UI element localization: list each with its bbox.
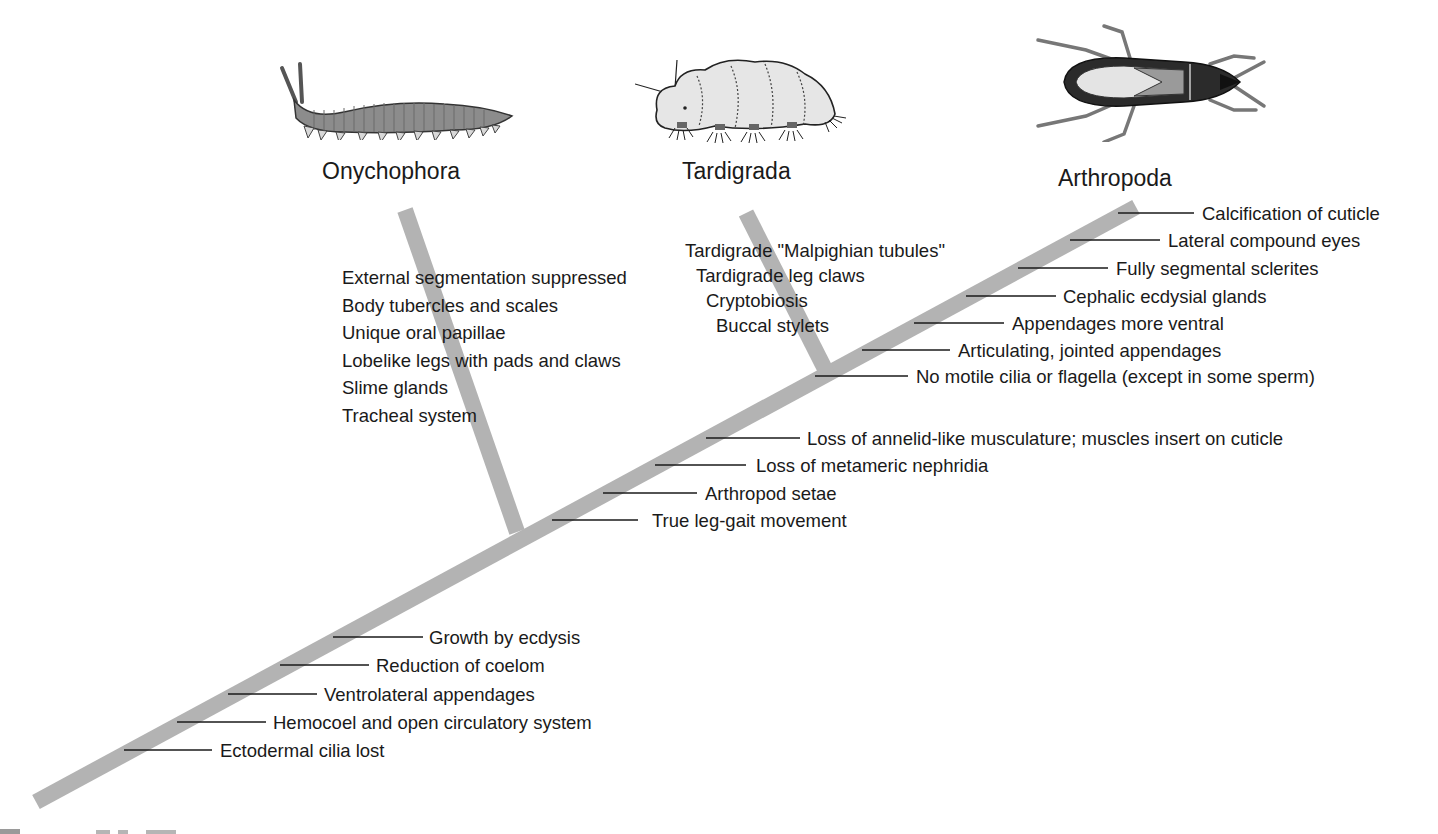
character-label: Unique oral papillae [342,319,627,347]
taxon-label-arthropoda: Arthropoda [1058,165,1172,192]
character-label: Buccal stylets [716,315,829,337]
character-label: Cryptobiosis [706,290,808,312]
character-label: Appendages more ventral [1012,313,1224,335]
figure-caption-cutoff [0,829,180,834]
tardigrade-illustration [635,48,855,148]
character-label: Ventrolateral appendages [324,684,535,706]
character-label: Articulating, jointed appendages [958,340,1221,362]
character-label: Growth by ecdysis [429,627,580,649]
character-label: Lateral compound eyes [1168,230,1360,252]
character-label: Tracheal system [342,402,627,430]
character-label: Arthropod setae [705,483,837,505]
character-label: External segmentation suppressed [342,264,627,292]
character-label: Calcification of cuticle [1202,203,1380,225]
character-label: Loss of annelid-like musculature; muscle… [807,428,1283,450]
character-label: Body tubercles and scales [342,292,627,320]
character-label: Loss of metameric nephridia [756,455,988,477]
character-label: Ectodermal cilia lost [220,740,385,762]
character-label: Hemocoel and open circulatory system [273,712,592,734]
taxon-label-tardigrada: Tardigrada [682,158,791,185]
character-label: No motile cilia or flagella (except in s… [916,366,1315,388]
character-label: True leg-gait movement [652,510,847,532]
insect-bug-illustration [1034,22,1274,142]
character-label: Cephalic ecdysial glands [1063,286,1267,308]
taxon-label-onychophora: Onychophora [322,158,460,185]
character-label: Tardigrade "Malpighian tubules" [685,240,945,262]
character-label: Tardigrade leg claws [696,265,865,287]
character-label: Slime glands [342,374,627,402]
character-label: Lobelike legs with pads and claws [342,347,627,375]
character-label: Fully segmental sclerites [1116,258,1319,280]
character-label: Reduction of coelom [376,655,545,677]
velvet-worm-illustration [274,60,524,140]
onychophora-character-list: External segmentation suppressed Body tu… [342,264,627,429]
